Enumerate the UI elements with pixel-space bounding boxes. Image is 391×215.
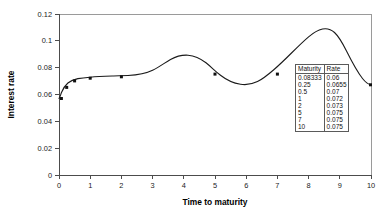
- data-point-marker: [60, 97, 63, 100]
- data-point-marker: [73, 79, 76, 82]
- x-tick-label: 10: [367, 181, 375, 190]
- data-point-marker: [65, 86, 68, 89]
- x-tick-label: 7: [275, 181, 279, 190]
- column-header-rate: Rate: [324, 65, 348, 74]
- data-point-marker: [369, 83, 372, 86]
- data-point-marker: [89, 77, 92, 80]
- x-tick-label: 4: [182, 181, 186, 190]
- cell-maturity: 10: [296, 124, 324, 132]
- y-axis-tick-labels: 0 0.02 0.04 0.06 0.08 0.1 0.12: [38, 10, 52, 180]
- y-tick-label: 0.12: [38, 10, 52, 19]
- maturity-rate-table: Maturity Rate 0.08333 0.06 0.25 0.0655 0…: [295, 64, 349, 132]
- x-tick-label: 6: [244, 181, 248, 190]
- table-header-row: Maturity Rate: [296, 65, 348, 74]
- x-axis-title: Time to maturity: [183, 197, 248, 207]
- x-tick-label: 9: [338, 181, 342, 190]
- cell-rate: 0.075: [324, 124, 348, 132]
- y-tick-label: 0.04: [38, 117, 52, 126]
- y-axis-title: Interest rate: [6, 70, 16, 118]
- x-tick-label: 1: [88, 181, 92, 190]
- x-tick-label: 5: [213, 181, 217, 190]
- chart-screenshot: 0 0.02 0.04 0.06 0.08 0.1 0.12 0 1 2: [0, 0, 391, 215]
- x-tick-label: 3: [151, 181, 155, 190]
- y-tick-label: 0.08: [38, 63, 52, 72]
- data-point-marker: [120, 75, 123, 78]
- x-axis-tick-labels: 0 1 2 3 4 5 6 7 8 9 10: [57, 181, 375, 190]
- data-point-marker: [276, 73, 279, 76]
- y-tick-label: 0.02: [38, 144, 52, 153]
- column-header-maturity: Maturity: [296, 65, 324, 74]
- data-point-marker: [214, 73, 217, 76]
- x-axis-ticks: [59, 175, 371, 179]
- y-tick-label: 0.06: [38, 90, 52, 99]
- y-tick-label: 0: [48, 171, 52, 180]
- x-tick-label: 2: [119, 181, 123, 190]
- y-axis-ticks: [55, 14, 59, 175]
- x-tick-label: 8: [307, 181, 311, 190]
- y-tick-label: 0.1: [42, 36, 52, 45]
- x-tick-label: 0: [57, 181, 61, 190]
- table-row: 10 0.075: [296, 124, 348, 132]
